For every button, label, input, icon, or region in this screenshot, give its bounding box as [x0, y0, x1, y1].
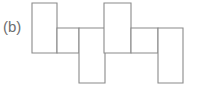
polyomino-diagram	[0, 0, 200, 89]
cell-bottom-left	[79, 28, 105, 83]
cell-bottom-right	[158, 28, 183, 83]
cell-mid-right	[131, 28, 158, 53]
cell-top-right	[104, 3, 131, 53]
figure-container: (b)	[0, 0, 200, 89]
cell-top-left	[32, 3, 57, 53]
cell-mid-left	[57, 28, 79, 53]
